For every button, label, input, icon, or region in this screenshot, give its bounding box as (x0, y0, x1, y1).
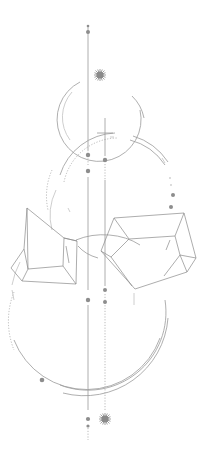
illustration-canvas (0, 0, 212, 452)
axis-dot (86, 30, 90, 34)
left-crystal (11, 208, 77, 284)
axis-dot (103, 288, 107, 292)
axis-dot (86, 153, 90, 157)
sparkle-icon (99, 413, 111, 425)
axis-dot (103, 300, 107, 304)
axis-dot (86, 417, 90, 421)
right-crystal (101, 213, 196, 289)
top-circle (57, 82, 144, 161)
decorative-strokes (12, 158, 165, 305)
main-axis (86, 25, 90, 440)
center-arc (76, 235, 140, 258)
axis-dot (86, 424, 89, 427)
axis-dot (86, 298, 90, 302)
axis-dot (86, 169, 90, 173)
orbit-dot (40, 378, 45, 383)
axis-dot (87, 25, 90, 28)
right-dots (169, 177, 175, 209)
axis-dot (103, 158, 107, 162)
sparkle-icon (94, 69, 106, 81)
